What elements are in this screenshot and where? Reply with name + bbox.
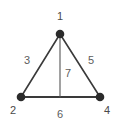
edge-label-5: 5	[81, 55, 101, 66]
node-4-dot[interactable]	[96, 93, 105, 102]
edge-label-3: 3	[17, 55, 37, 66]
node-label-1: 1	[50, 11, 70, 22]
edge-label-7: 7	[58, 68, 78, 79]
node-label-2: 2	[3, 105, 23, 116]
node-1-dot[interactable]	[56, 30, 65, 39]
node-label-4: 4	[97, 105, 117, 116]
graph-figure: 1 2 4 3 5 7 6	[0, 0, 120, 129]
node-2-dot[interactable]	[17, 93, 26, 102]
edge-label-6: 6	[50, 109, 70, 120]
